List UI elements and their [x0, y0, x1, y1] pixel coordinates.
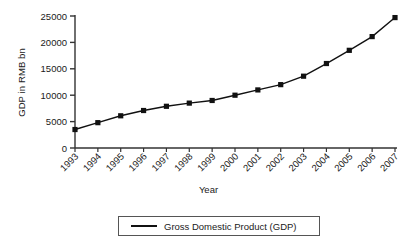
y-axis-tick-label: 10000: [41, 90, 67, 101]
data-point-marker: [392, 15, 397, 20]
x-axis-tick-label: 2001: [241, 151, 264, 174]
x-axis-tick-label: 1998: [172, 151, 195, 174]
y-axis-tick-label: 25000: [41, 11, 67, 22]
plot-area: 0500010000150002000025000199319941995199…: [0, 0, 417, 210]
y-axis-tick-label: 20000: [41, 37, 67, 48]
data-point-marker: [95, 120, 100, 125]
y-axis-tick-label: 15000: [41, 63, 67, 74]
x-axis-tick-label: 2005: [332, 151, 355, 174]
data-point-marker: [210, 98, 215, 103]
data-point-marker: [347, 48, 352, 53]
data-point-marker: [278, 82, 283, 87]
series-line-gross-domestic-product: [75, 18, 395, 130]
data-point-marker: [232, 93, 237, 98]
x-axis-tick-label: 2000: [218, 151, 241, 174]
chart-legend: Gross Domestic Product (GDP): [118, 216, 320, 236]
data-point-marker: [301, 74, 306, 79]
x-axis-tick-label: 2007: [378, 151, 401, 174]
x-axis-title: Year: [0, 184, 417, 195]
legend-item-label: Gross Domestic Product (GDP): [164, 221, 297, 232]
x-axis-tick-label: 1994: [81, 151, 104, 174]
data-point-marker: [118, 113, 123, 118]
x-axis-tick-label: 2003: [286, 151, 309, 174]
x-axis-tick-label: 1993: [58, 151, 81, 174]
data-point-marker: [370, 34, 375, 39]
x-axis-tick-label: 2002: [263, 151, 286, 174]
legend-line-swatch-icon: [131, 221, 157, 231]
gdp-line-chart: GDP in RMB bn 05000100001500020000250001…: [0, 0, 417, 248]
data-point-marker: [164, 104, 169, 109]
x-axis-tick-label: 2004: [309, 151, 332, 174]
data-point-marker: [187, 101, 192, 106]
data-point-marker: [141, 108, 146, 113]
y-axis-tick-label: 5000: [46, 116, 67, 127]
x-axis-tick-label: 2006: [355, 151, 378, 174]
x-axis-tick-label: 1995: [103, 151, 126, 174]
x-axis-tick-label: 1999: [195, 151, 218, 174]
y-axis-tick-label: 0: [62, 143, 67, 154]
data-point-marker: [72, 127, 77, 132]
x-axis-tick-label: 1996: [126, 151, 149, 174]
data-point-marker: [255, 87, 260, 92]
data-point-marker: [324, 61, 329, 66]
x-axis-tick-label: 1997: [149, 151, 172, 174]
